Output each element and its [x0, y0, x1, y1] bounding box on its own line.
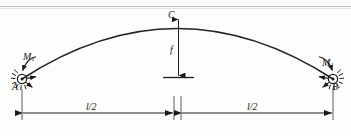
- support-left-label: A: [12, 82, 18, 92]
- arch-diagram-figure: C A B M1 M1 f l/2 l/2: [0, 0, 351, 136]
- arch-diagram-canvas: [0, 0, 351, 136]
- moment-left-subscript: 1: [31, 55, 34, 62]
- span-left-label: l/2: [86, 102, 97, 112]
- moment-right-subscript: 1: [330, 61, 333, 68]
- moment-right-label: M1: [322, 58, 334, 68]
- reaction-arrow-right-diagonal: [323, 82, 329, 87]
- rise-label: f: [170, 45, 173, 55]
- hinge-pin-left: [21, 78, 24, 81]
- span-right-label: l/2: [247, 102, 258, 112]
- reaction-arrow-right-horizontal: [319, 77, 328, 79]
- crown-label: C: [168, 10, 175, 20]
- reaction-arrow-left-horizontal: [27, 77, 36, 79]
- reaction-arrow-left-diagonal: [26, 82, 32, 87]
- arch-axis-curve: [22, 29, 333, 80]
- moment-left-label: M1: [23, 52, 35, 62]
- support-right-label: B: [332, 82, 338, 92]
